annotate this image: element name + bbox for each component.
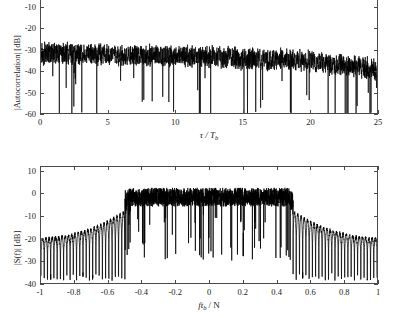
x-tick-mark bbox=[310, 110, 311, 114]
x-tick-label: 5 bbox=[105, 117, 109, 127]
x-tick-label: 20 bbox=[306, 117, 315, 127]
x-tick-mark bbox=[277, 280, 278, 284]
autocorrelation-x-axis-title: τ / Tb bbox=[200, 130, 218, 141]
x-tick-label: 0 bbox=[38, 117, 42, 127]
spectrum-panel: 100-10-20-30-40 -1-0.8-0.6-0.4-0.200.20.… bbox=[0, 160, 397, 317]
spectrum-trace bbox=[41, 167, 377, 283]
x-tick-mark bbox=[378, 280, 379, 284]
y-tick-mark-right bbox=[374, 71, 378, 72]
x-tick-label: 25 bbox=[374, 117, 383, 127]
spectrum-line bbox=[41, 188, 377, 281]
x-tick-mark-top bbox=[310, 166, 311, 170]
x-tick-mark-top bbox=[108, 166, 109, 170]
y-tick-mark bbox=[40, 261, 44, 262]
spectrum-axes bbox=[40, 166, 378, 284]
x-tick-label: 0.4 bbox=[271, 287, 282, 297]
x-tick-mark bbox=[209, 280, 210, 284]
y-tick-mark bbox=[40, 28, 44, 29]
y-tick-mark bbox=[40, 216, 44, 217]
y-tick-mark-right bbox=[374, 239, 378, 240]
figure-container: -10-20-30-40-50-60 0510152025 |Autocorre… bbox=[0, 0, 397, 317]
x-tick-mark-top bbox=[378, 166, 379, 170]
y-tick-mark bbox=[40, 239, 44, 240]
x-tick-label: 0.8 bbox=[339, 287, 350, 297]
x-tick-label: -0.6 bbox=[101, 287, 114, 297]
x-tick-label: 0 bbox=[207, 287, 211, 297]
x-tick-label: 10 bbox=[171, 117, 180, 127]
x-tick-mark bbox=[108, 110, 109, 114]
x-tick-label: 1 bbox=[376, 287, 380, 297]
x-tick-mark-top bbox=[209, 166, 210, 170]
autocorrelation-x-axis-title-sub: b bbox=[215, 134, 218, 141]
x-tick-mark-top bbox=[344, 166, 345, 170]
spectrum-x-axis-title-post: / N bbox=[209, 300, 220, 310]
y-tick-mark-right bbox=[374, 284, 378, 285]
y-tick-mark-right bbox=[374, 193, 378, 194]
x-tick-label: -0.2 bbox=[168, 287, 181, 297]
x-tick-label: 0.6 bbox=[305, 287, 316, 297]
y-tick-mark-right bbox=[374, 171, 378, 172]
x-tick-mark bbox=[175, 280, 176, 284]
x-tick-mark bbox=[243, 280, 244, 284]
y-tick-mark bbox=[40, 171, 44, 172]
y-tick-label: -10 bbox=[12, 212, 36, 221]
autocorrelation-y-axis-title: |Autocorrelation| [dB] bbox=[12, 35, 22, 110]
y-tick-label: -60 bbox=[12, 110, 36, 119]
spectrum-x-axis-title-sub: b bbox=[203, 304, 206, 311]
x-tick-label: -0.4 bbox=[135, 287, 148, 297]
x-tick-mark bbox=[175, 110, 176, 114]
x-tick-label: 0.2 bbox=[237, 287, 248, 297]
x-tick-mark-top bbox=[175, 166, 176, 170]
y-tick-mark bbox=[40, 50, 44, 51]
y-tick-mark bbox=[40, 114, 44, 115]
x-tick-mark bbox=[108, 280, 109, 284]
y-tick-label: -40 bbox=[12, 280, 36, 289]
x-tick-mark bbox=[378, 110, 379, 114]
x-tick-mark bbox=[40, 110, 41, 114]
autocorrelation-panel: -10-20-30-40-50-60 0510152025 |Autocorre… bbox=[0, 0, 397, 150]
autocorrelation-line bbox=[41, 42, 377, 113]
x-tick-mark-top bbox=[243, 166, 244, 170]
y-tick-mark-right bbox=[374, 114, 378, 115]
autocorrelation-trace bbox=[41, 0, 377, 113]
x-tick-mark bbox=[344, 280, 345, 284]
y-tick-mark-right bbox=[374, 216, 378, 217]
y-tick-label: 0 bbox=[12, 189, 36, 198]
y-tick-mark bbox=[40, 284, 44, 285]
y-tick-mark bbox=[40, 71, 44, 72]
y-tick-mark bbox=[40, 193, 44, 194]
x-tick-mark-top bbox=[141, 166, 142, 170]
y-tick-label: -10 bbox=[12, 2, 36, 11]
x-tick-label: -1 bbox=[36, 287, 43, 297]
x-tick-mark bbox=[74, 280, 75, 284]
y-tick-mark bbox=[40, 7, 44, 8]
y-tick-mark-right bbox=[374, 28, 378, 29]
y-tick-mark-right bbox=[374, 261, 378, 262]
x-tick-label: -0.8 bbox=[67, 287, 80, 297]
spectrum-x-axis-title: ftb/ N bbox=[198, 300, 220, 311]
y-tick-label: 10 bbox=[12, 166, 36, 175]
x-tick-mark bbox=[40, 280, 41, 284]
x-tick-mark-top bbox=[277, 166, 278, 170]
y-tick-mark-right bbox=[374, 50, 378, 51]
x-tick-mark bbox=[141, 280, 142, 284]
x-tick-mark bbox=[243, 110, 244, 114]
y-tick-mark-right bbox=[374, 93, 378, 94]
autocorrelation-x-axis-title-main: τ / T bbox=[200, 130, 215, 140]
y-tick-label: -20 bbox=[12, 24, 36, 33]
x-tick-mark-top bbox=[40, 166, 41, 170]
y-tick-mark bbox=[40, 93, 44, 94]
autocorrelation-axes bbox=[40, 0, 378, 114]
x-tick-mark-top bbox=[74, 166, 75, 170]
spectrum-y-axis-title: |S(f)| [dB] bbox=[12, 231, 22, 265]
y-tick-mark-right bbox=[374, 7, 378, 8]
x-tick-mark bbox=[310, 280, 311, 284]
x-tick-label: 15 bbox=[239, 117, 248, 127]
